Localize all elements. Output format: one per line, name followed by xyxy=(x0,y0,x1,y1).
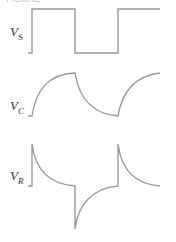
vc-trace xyxy=(28,73,160,116)
vs-label: VS xyxy=(10,24,23,42)
vr-trace xyxy=(28,144,160,229)
vc-label: VC xyxy=(10,98,24,116)
vr-label: VR xyxy=(10,168,23,186)
waveform-diagram xyxy=(0,0,176,242)
vs-trace xyxy=(28,9,160,53)
